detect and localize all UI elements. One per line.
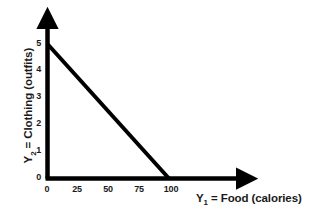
x-axis-title: Y1 = Food (calories) [196,192,302,207]
x-axis-title-symbol: Y [196,192,204,204]
budget-constraint-line [48,44,170,179]
x-tick-label-75: 75 [126,184,152,194]
x-tick-label-50: 50 [95,184,121,194]
x-tick-label-0: 0 [34,184,60,194]
chart-figure: 0 25 50 75 100 0 1 2 3 4 5 Y1 = Food (ca… [0,0,330,219]
x-tick-label-100: 100 [158,184,184,194]
x-axis-title-rest: = Food (calories) [208,192,302,204]
y-axis-title: Y2 = Clothing (outfits) [22,26,37,186]
y-axis-title-symbol: Y [22,156,34,164]
y-axis-title-subscript: 2 [29,151,38,155]
y-axis-title-rest: = Clothing (outfits) [22,48,34,152]
x-tick-label-25: 25 [64,184,90,194]
